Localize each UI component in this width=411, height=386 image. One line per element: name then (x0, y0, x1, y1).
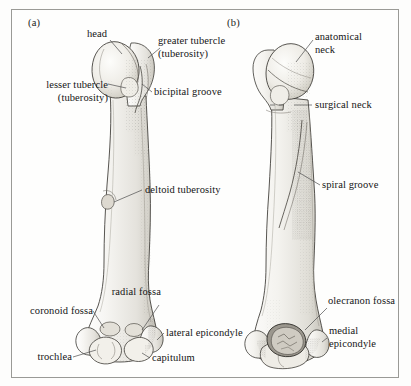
label-trochlea: trochlea (20, 351, 72, 364)
label-bicipital-groove: bicipital groove (154, 86, 244, 99)
label-greater-tubercle: greater tubercle (tuberosity) (158, 35, 250, 60)
label-capitulum: capitulum (152, 352, 218, 365)
label-surgical-neck: surgical neck (315, 99, 395, 112)
label-coronoid-fossa: coronoid fossa (15, 305, 93, 318)
label-spiral-groove: spiral groove (322, 179, 402, 192)
label-lateral-epicondyle: lateral epicondyle (166, 327, 264, 340)
panel-tag-b: (b) (227, 17, 240, 28)
label-radial-fossa: radial fossa (95, 286, 161, 299)
label-lesser-tubercle: lesser tubercle (tuberosity) (18, 79, 108, 104)
panel-tag-a: (a) (28, 17, 40, 28)
label-anatomical-neck: anatomical neck (315, 31, 391, 56)
label-medial-epicondyle: medial epicondyle (329, 325, 405, 350)
label-head: head (72, 28, 122, 41)
label-olecranon-fossa: olecranon fossa (328, 295, 411, 308)
anatomy-figure: (a) (b) head greater tubercle (tuberosit… (0, 0, 411, 386)
label-deltoid-tuberosity: deltoid tuberosity (145, 184, 247, 197)
